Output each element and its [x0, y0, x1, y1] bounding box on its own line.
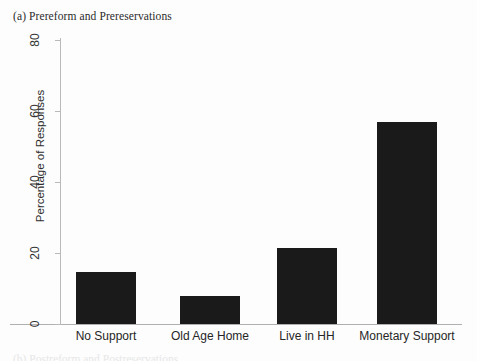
y-tick-mark	[55, 182, 61, 183]
bar-chart-plot-area: 806040200 Percentage of Responses No Sup…	[0, 0, 477, 361]
x-tick-label: Monetary Support	[332, 329, 477, 343]
figure-panel-a: (a) Prereform and Prereservations 806040…	[0, 0, 477, 361]
y-tick-mark	[55, 111, 61, 112]
bar	[76, 272, 136, 324]
y-tick-mark	[55, 253, 61, 254]
x-axis-line	[10, 324, 462, 325]
y-tick-mark	[55, 324, 61, 325]
y-tick-label-wrap: 80	[22, 33, 48, 47]
y-axis-title: Percentage of Responses	[34, 46, 46, 266]
bar	[377, 122, 437, 324]
bottom-caption-partial: (b) Postreform and Postreservations	[13, 353, 178, 361]
bar	[180, 296, 240, 324]
bar	[277, 248, 337, 324]
y-tick-mark	[55, 40, 61, 41]
